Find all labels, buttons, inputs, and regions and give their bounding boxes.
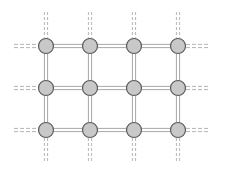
grid-nodes [39, 39, 186, 138]
grid-node-0-1 [83, 39, 98, 54]
grid-node-0-2 [127, 39, 142, 54]
grid-node-1-1 [83, 81, 98, 96]
grid-node-2-0 [39, 123, 54, 138]
grid-node-2-2 [127, 123, 142, 138]
grid-graph-diagram [0, 0, 225, 170]
grid-node-2-3 [171, 123, 186, 138]
grid-node-0-3 [171, 39, 186, 54]
grid-node-1-3 [171, 81, 186, 96]
grid-node-0-0 [39, 39, 54, 54]
grid-node-1-0 [39, 81, 54, 96]
grid-node-1-2 [127, 81, 142, 96]
grid-edges [44, 44, 179, 131]
grid-node-2-1 [83, 123, 98, 138]
